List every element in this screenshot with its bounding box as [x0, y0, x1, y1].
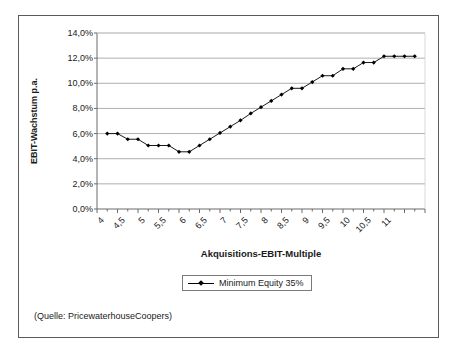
legend-marker-icon: [188, 279, 214, 288]
legend-entry-label: Minimum Equity 35%: [219, 278, 304, 288]
figure-canvas: EBIT-Wachstum p.a. 0,0%2,0%4,0%6,0%8,0%1…: [0, 0, 458, 355]
x-axis-tick-labels: 44,555,566,577,588,599,51010,511: [0, 0, 458, 355]
x-axis-title: Akquisitions-EBIT-Multiple: [97, 248, 425, 259]
source-note: (Quelle: PricewaterhouseCoopers): [34, 311, 172, 321]
chart-legend: Minimum Equity 35%: [182, 275, 312, 291]
